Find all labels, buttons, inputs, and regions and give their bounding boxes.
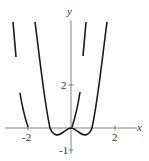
x-tick-label-2: 2 bbox=[112, 131, 118, 143]
left-outer-lower-segment bbox=[20, 93, 28, 127]
y-axis-label: y bbox=[66, 5, 72, 17]
right-inner-upper-segment bbox=[83, 22, 86, 56]
y-tick-label-neg1: -1 bbox=[59, 144, 68, 156]
plot-area: x y -2 2 2 -1 bbox=[0, 0, 149, 161]
function-graph: x y -2 2 2 -1 bbox=[0, 0, 149, 161]
right-inner-lower-segment bbox=[72, 92, 80, 127]
left-outer-upper-segment bbox=[13, 22, 16, 57]
x-axis-label: x bbox=[136, 121, 142, 133]
x-tick-label-neg2: -2 bbox=[22, 131, 31, 143]
y-tick-label-2: 2 bbox=[61, 79, 67, 91]
